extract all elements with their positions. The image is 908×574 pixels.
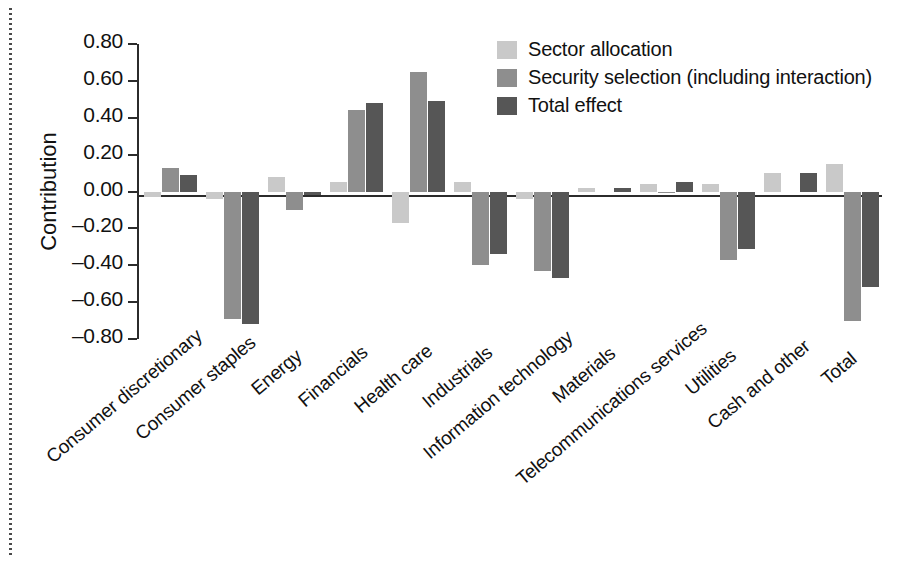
y-tick-mark: 0.80 xyxy=(128,43,137,45)
bar xyxy=(366,103,383,192)
bar xyxy=(764,173,781,191)
bar xyxy=(242,192,259,325)
y-tick-label: –0.60 xyxy=(72,287,123,311)
bar xyxy=(392,192,409,223)
legend-label: Security selection (including interactio… xyxy=(528,66,872,89)
bar-group xyxy=(330,44,383,339)
bar-group xyxy=(392,44,445,339)
legend-label: Total effect xyxy=(528,94,622,117)
y-tick-label: –0.80 xyxy=(72,324,123,348)
bar-group xyxy=(268,44,321,339)
y-tick-mark: 0.60 xyxy=(128,80,137,82)
bar xyxy=(640,184,657,191)
y-tick-label: 0.20 xyxy=(83,139,123,163)
bar xyxy=(862,192,879,288)
bar xyxy=(330,182,347,191)
bar xyxy=(614,188,631,192)
bar xyxy=(304,192,321,196)
bar xyxy=(658,192,675,194)
bar xyxy=(268,177,285,192)
bar xyxy=(844,192,861,321)
bar xyxy=(348,110,365,191)
legend-swatch xyxy=(497,97,517,115)
legend-item: Security selection (including interactio… xyxy=(497,65,872,90)
y-tick-label: 0.80 xyxy=(83,29,123,53)
legend-swatch xyxy=(497,41,517,59)
x-axis-label: Total xyxy=(817,348,861,390)
y-tick-mark: –0.20 xyxy=(128,227,137,229)
bar xyxy=(410,72,427,192)
bar-group xyxy=(206,44,259,339)
legend-item: Total effect xyxy=(497,93,872,118)
y-axis-title: Contribution xyxy=(36,44,60,339)
bar xyxy=(224,192,241,319)
bar xyxy=(702,184,719,191)
bar xyxy=(720,192,737,260)
bar xyxy=(180,175,197,192)
bar xyxy=(490,192,507,255)
legend-swatch xyxy=(497,69,517,87)
bar xyxy=(286,192,303,210)
y-tick-mark: 0.00 xyxy=(128,191,137,193)
y-tick-mark: –0.40 xyxy=(128,264,137,266)
y-axis-line xyxy=(137,44,139,339)
bar xyxy=(428,101,445,191)
y-tick-label: 0.60 xyxy=(83,65,123,89)
bar xyxy=(162,168,179,192)
y-tick-mark: –0.60 xyxy=(128,301,137,303)
bar xyxy=(552,192,569,279)
y-tick-mark: 0.40 xyxy=(128,117,137,119)
bar xyxy=(800,173,817,191)
bar xyxy=(676,182,693,191)
bar xyxy=(826,164,843,192)
bar-group xyxy=(144,44,197,339)
y-tick-label: –0.40 xyxy=(72,250,123,274)
y-tick-label: –0.20 xyxy=(72,213,123,237)
y-tick-mark: –0.80 xyxy=(128,338,137,340)
y-tick-mark: 0.20 xyxy=(128,154,137,156)
chart-legend: Sector allocationSecurity selection (inc… xyxy=(497,37,872,121)
bar xyxy=(534,192,551,271)
legend-item: Sector allocation xyxy=(497,37,872,62)
bar xyxy=(472,192,489,266)
chart-figure: Contribution 0.800.600.400.200.00–0.20–0… xyxy=(0,0,908,574)
bar xyxy=(454,182,471,191)
legend-label: Sector allocation xyxy=(528,38,672,61)
bar xyxy=(144,192,161,198)
y-tick-label: 0.40 xyxy=(83,102,123,126)
bar xyxy=(578,188,595,192)
bar xyxy=(738,192,755,249)
bar xyxy=(206,192,223,199)
page-margin-rule xyxy=(9,8,12,556)
bar xyxy=(516,192,533,199)
y-tick-label: 0.00 xyxy=(83,176,123,200)
